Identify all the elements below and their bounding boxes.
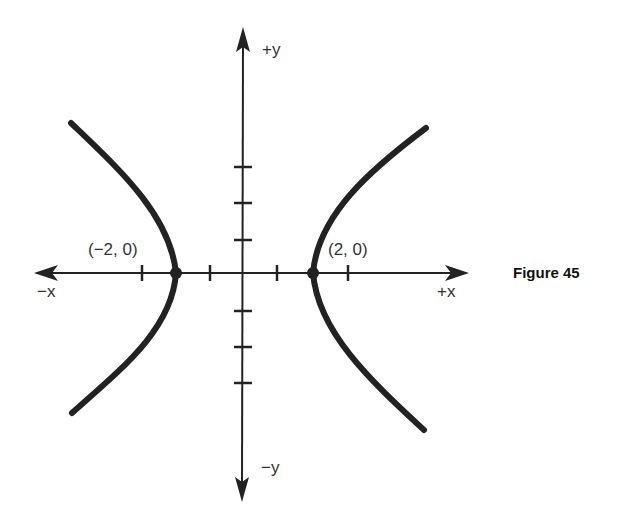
- x-axis: [34, 265, 469, 281]
- y-axis: [234, 27, 252, 502]
- point-label-left-vertex: (−2, 0): [88, 240, 138, 260]
- hyperbola-left-branch: [71, 123, 176, 413]
- point-label-right-vertex: (2, 0): [328, 240, 368, 260]
- figure-caption: Figure 45: [513, 264, 580, 281]
- axis-label-positive-x: +x: [437, 282, 455, 302]
- axis-label-negative-y: −y: [261, 458, 279, 478]
- hyperbola-right-branch: [313, 128, 426, 430]
- vertex-point-left: [170, 267, 182, 279]
- vertex-point-right: [307, 267, 319, 279]
- axis-label-negative-x: −x: [37, 282, 55, 302]
- axis-label-positive-y: +y: [262, 40, 280, 60]
